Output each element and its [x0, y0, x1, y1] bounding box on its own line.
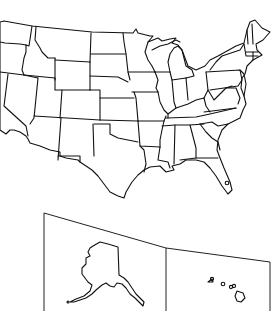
map-canvas [0, 0, 273, 311]
hawaii-maui [232, 284, 235, 287]
hawaii-inset [208, 277, 245, 302]
alaska-outline [70, 242, 144, 306]
aleutian-islands [67, 301, 69, 303]
hawaii-big-island [235, 291, 245, 302]
us-outline-map [0, 0, 273, 311]
hawaii-oahu [221, 282, 225, 286]
alaska-inset [67, 242, 144, 306]
contiguous-united-states [0, 20, 270, 198]
